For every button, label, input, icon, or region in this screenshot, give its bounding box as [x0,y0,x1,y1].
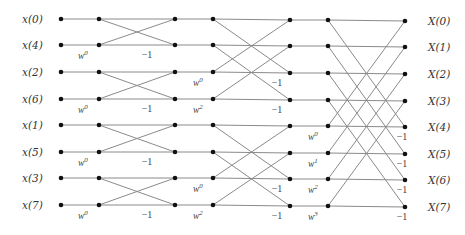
input-label: x(6) [22,93,43,105]
node-dot [288,151,293,156]
node-dot [97,43,102,48]
node-dot [173,150,178,155]
node-dot [59,123,64,128]
minus-one-label: −1 [272,77,283,88]
node-dot [59,97,64,102]
node-dot [288,204,293,209]
butterfly-straight-edge [213,19,290,20]
input-label: x(5) [22,146,43,158]
node-dot [59,176,64,181]
input-label: x(4) [22,39,43,51]
node-dot [288,71,293,76]
node-dot [326,151,331,156]
fft-butterfly-diagram: x(0)x(4)x(2)x(6)x(1)x(5)x(3)x(7)X(0)X(1)… [0,0,465,235]
node-dot [326,124,331,129]
twiddle-factor-label: w2 [193,103,203,115]
input-label: x(0) [22,13,43,25]
minus-one-label: −1 [142,103,153,114]
input-label: x(1) [22,119,43,131]
node-dot [173,70,178,75]
minus-one-label: −1 [272,210,283,221]
node-dot [288,98,293,103]
node-dot [211,97,216,102]
twiddle-factor-label: w0 [78,209,88,221]
butterfly-straight-edge [328,46,405,47]
node-dot [403,178,408,183]
node-dot [403,45,408,50]
node-dot [288,124,293,129]
node-dot [173,203,178,208]
output-label: X(2) [427,68,450,80]
node-dot [326,204,331,209]
node-dot [97,17,102,22]
node-dot [97,150,102,155]
node-dot [211,203,216,208]
node-dot [403,19,408,24]
node-dot [97,176,102,181]
node-dot [211,150,216,155]
minus-one-label: −1 [142,156,153,167]
twiddle-factor-label: w0 [308,130,318,142]
output-label: X(6) [427,174,450,186]
node-dot [97,70,102,75]
node-dot [59,43,64,48]
twiddle-factor-label: w0 [193,182,203,194]
node-dot [211,70,216,75]
twiddle-factor-label: w0 [78,49,88,61]
node-dot [403,205,408,210]
butterfly-straight-edge [328,20,405,21]
node-dot [326,18,331,23]
input-label: x(2) [22,66,43,78]
node-dot [59,17,64,22]
labels-layer: x(0)x(4)x(2)x(6)x(1)x(5)x(3)x(7)X(0)X(1)… [22,13,450,222]
node-dot [326,44,331,49]
minus-one-label: −1 [272,104,283,115]
output-label: X(4) [427,121,450,133]
node-dot [403,72,408,77]
output-label: X(3) [427,95,450,107]
twiddle-factor-label: w3 [308,210,318,222]
output-label: X(5) [427,148,450,160]
node-dot [97,97,102,102]
twiddle-factor-label: w1 [308,157,318,169]
node-dot [403,99,408,104]
input-label: x(7) [22,199,43,211]
node-dot [59,203,64,208]
minus-one-label: −1 [397,131,408,142]
node-dot [173,176,178,181]
butterfly-straight-edge [328,179,405,180]
minus-one-label: −1 [272,183,283,194]
minus-one-label: −1 [397,158,408,169]
node-dot [173,123,178,128]
node-dot [288,44,293,49]
minus-one-label: −1 [397,184,408,195]
node-dot [173,17,178,22]
butterfly-straight-edge [213,99,290,100]
node-dot [59,150,64,155]
twiddle-factor-label: w0 [193,76,203,88]
twiddle-factor-label: w0 [78,156,88,168]
node-dot [403,125,408,130]
node-dot [97,123,102,128]
output-label: X(1) [427,41,450,53]
node-dot [173,97,178,102]
input-label: x(3) [22,172,43,184]
edges-layer [61,19,405,207]
node-dot [97,203,102,208]
twiddle-factor-label: w0 [78,103,88,115]
twiddle-factor-label: w2 [308,183,318,195]
node-dot [211,176,216,181]
minus-one-label: −1 [142,49,153,60]
node-dot [211,43,216,48]
node-dot [288,177,293,182]
butterfly-straight-edge [213,205,290,206]
minus-one-label: −1 [142,209,153,220]
twiddle-factor-label: w2 [193,209,203,221]
node-dot [326,71,331,76]
minus-one-label: −1 [397,211,408,222]
output-label: X(7) [427,201,450,213]
node-dot [288,18,293,23]
butterfly-straight-edge [328,206,405,207]
node-dot [326,177,331,182]
node-dot [326,98,331,103]
